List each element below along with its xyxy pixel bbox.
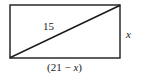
geometry-figure: 15 x (21 − x) bbox=[0, 0, 141, 80]
width-label-suffix: ) bbox=[78, 61, 82, 73]
width-label: (21 − x) bbox=[47, 62, 82, 73]
width-label-prefix: (21 bbox=[47, 61, 64, 73]
diagonal-length-label: 15 bbox=[43, 21, 54, 32]
height-label: x bbox=[126, 29, 131, 40]
